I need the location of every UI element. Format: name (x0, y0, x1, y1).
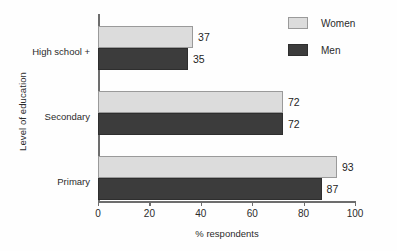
category-label-secondary: Secondary (45, 111, 90, 122)
legend-label-men: Men (321, 45, 340, 56)
legend-item-men[interactable]: Men (288, 44, 355, 56)
bar-row-women-secondary: 72 (98, 91, 355, 113)
bar-row-men-secondary: 72 (98, 113, 355, 135)
x-tick-20 (149, 201, 150, 206)
bar-women-secondary[interactable] (98, 91, 283, 113)
chart-legend: Women Men (288, 17, 355, 71)
bar-value-women-high-school: 37 (193, 31, 210, 43)
bar-group-primary: 93 87 (98, 156, 355, 200)
x-tick-60 (252, 201, 253, 206)
legend-label-women: Women (321, 18, 355, 29)
x-axis-title: % respondents (98, 228, 356, 239)
x-tick-label-60: 60 (247, 208, 258, 219)
category-axis-labels: High school + Secondary Primary (0, 14, 96, 201)
legend-swatch-women-icon (288, 17, 308, 29)
bar-value-men-high-school: 35 (188, 53, 205, 65)
x-tick-100 (355, 201, 356, 206)
bar-men-high-school[interactable] (98, 48, 188, 70)
bar-men-secondary[interactable] (98, 113, 283, 135)
x-tick-label-80: 80 (298, 208, 309, 219)
bar-value-men-secondary: 72 (283, 118, 300, 130)
bar-women-primary[interactable] (98, 156, 337, 178)
bar-group-secondary: 72 72 (98, 91, 355, 135)
category-label-high-school: High school + (32, 46, 90, 57)
bar-row-women-primary: 93 (98, 156, 355, 178)
x-tick-label-100: 100 (347, 208, 364, 219)
x-tick-label-40: 40 (195, 208, 206, 219)
bar-chart: Level of education High school + Seconda… (0, 0, 397, 251)
x-tick-label-0: 0 (95, 208, 101, 219)
category-label-primary: Primary (57, 176, 90, 187)
bar-men-primary[interactable] (98, 178, 322, 200)
x-axis-line (98, 201, 356, 203)
x-tick-label-20: 20 (144, 208, 155, 219)
bar-women-high-school[interactable] (98, 26, 193, 48)
bar-row-men-primary: 87 (98, 178, 355, 200)
bar-value-men-primary: 87 (322, 183, 339, 195)
legend-item-women[interactable]: Women (288, 17, 355, 29)
bar-value-women-secondary: 72 (283, 96, 300, 108)
x-tick-80 (304, 201, 305, 206)
legend-swatch-men-icon (288, 44, 308, 56)
x-tick-40 (201, 201, 202, 206)
x-tick-0 (98, 201, 99, 206)
bar-value-women-primary: 93 (337, 161, 354, 173)
